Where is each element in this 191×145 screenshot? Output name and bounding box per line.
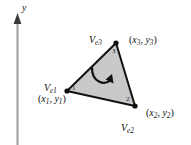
- local-node-number-3: 3: [112, 48, 116, 55]
- vertex-3-label: Ve3: [89, 35, 102, 47]
- vertex-1-coordinates: (x1, y1): [38, 94, 66, 106]
- vertex-3-coord-close: ): [153, 34, 156, 45]
- vertex-2-coord-comma: ,: [157, 107, 160, 118]
- triangular-element-figure: y Ve3 (x3, y3) Ve1 (x1, y1) Ve2 (x2, y2)…: [0, 0, 191, 145]
- vertex-2-name-subscript: e2: [127, 127, 134, 135]
- vertex-2-coord-close: ): [170, 107, 173, 118]
- triangle-element: [67, 43, 135, 106]
- vertex-dot-3: [113, 40, 118, 45]
- figure-canvas: [0, 0, 191, 145]
- vertex-2-label: Ve2: [121, 123, 134, 135]
- y-axis-arrowhead: [14, 13, 22, 24]
- vertex-1-coord-close: ): [62, 93, 65, 104]
- vertex-3-coord-comma: ,: [140, 34, 143, 45]
- vertex-3-name-subscript: e3: [95, 39, 102, 47]
- local-node-number-1: 1: [72, 85, 76, 92]
- vertex-1-coord-comma: ,: [49, 93, 52, 104]
- local-node-number-2: 2: [126, 96, 130, 103]
- y-axis-label: y: [22, 3, 26, 13]
- vertex-3-coordinates: (x3, y3): [129, 35, 157, 47]
- vertex-dot-2: [132, 103, 137, 108]
- vertex-2-coordinates: (x2, y2): [146, 108, 174, 120]
